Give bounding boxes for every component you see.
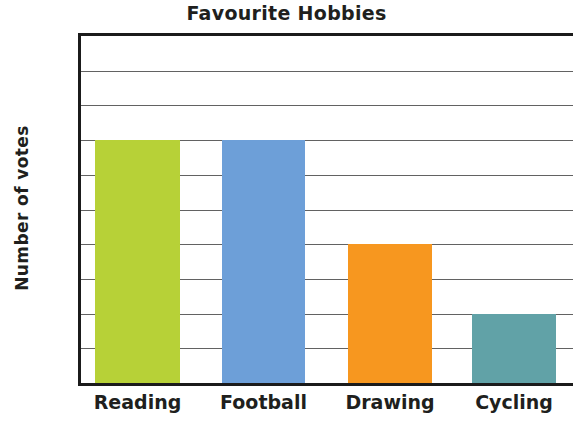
bar-drawing[interactable] [348,244,432,383]
x-tick-label-cycling: Cycling [424,391,573,413]
top-axis-line [78,33,573,36]
bar-cycling[interactable] [472,314,556,383]
bar-football[interactable] [222,140,305,383]
gridline [78,105,573,106]
bar-reading[interactable] [95,140,180,383]
plot-area: 12345678910 [78,36,573,383]
gridline [78,71,573,72]
x-axis-line [78,383,573,386]
y-axis-line [78,33,81,386]
y-axis-title: Number of votes [12,108,32,308]
chart-title: Favourite Hobbies [0,2,573,24]
bar-chart-figure: Favourite Hobbies Number of votes 123456… [0,0,573,425]
